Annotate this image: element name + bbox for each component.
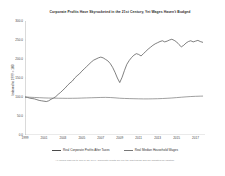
plot-area xyxy=(25,21,205,135)
x-tick-label: 2009 xyxy=(116,136,123,140)
x-tick-label: 1999 xyxy=(22,136,29,140)
y-tick-label: 200.0 xyxy=(15,57,23,61)
y-tick-label: 300.0 xyxy=(15,19,23,23)
legend: Real Corporate Profits After TaxesReal M… xyxy=(25,148,205,152)
y-tick-label: 150.0 xyxy=(15,76,23,80)
chart-note: All values indexed to 100 in Q1 1999. Co… xyxy=(25,159,205,162)
x-tick-label: 2011 xyxy=(135,136,142,140)
figure: Corporate Profits Have Skyrocketed in th… xyxy=(0,0,225,176)
axis-spine xyxy=(25,21,205,135)
x-tick-label: 2001 xyxy=(40,136,47,140)
legend-label: Real Corporate Profits After Taxes xyxy=(63,148,110,152)
x-tick-label: 2017 xyxy=(192,136,199,140)
x-tick-label: 2005 xyxy=(78,136,85,140)
legend-item-0[interactable]: Real Corporate Profits After Taxes xyxy=(52,148,110,152)
series-line-0 xyxy=(25,39,203,101)
legend-swatch-line-icon xyxy=(124,150,133,151)
chart-screenshot: Corporate Profits Have Skyrocketed in th… xyxy=(0,0,225,176)
x-tick-label: 2003 xyxy=(59,136,66,140)
legend-swatch-line-icon xyxy=(52,150,61,151)
legend-label: Real Median Household Wages xyxy=(135,148,178,152)
y-tick-label: 100.0 xyxy=(15,95,23,99)
x-axis-tick-labels: 1999200120032005200720092011201320152017 xyxy=(25,136,205,144)
x-tick-label: 2013 xyxy=(154,136,161,140)
plot-svg xyxy=(25,21,205,135)
legend-item-1[interactable]: Real Median Household Wages xyxy=(124,148,178,152)
series-line-1 xyxy=(25,96,203,99)
y-axis-tick-labels: 0.050.0100.0150.0200.0250.0300.0 xyxy=(0,21,23,135)
x-tick-label: 2007 xyxy=(97,136,104,140)
x-tick-label: 2015 xyxy=(173,136,180,140)
chart-title: Corporate Profits Have Skyrocketed in th… xyxy=(30,10,210,14)
y-tick-label: 50.0 xyxy=(17,114,23,118)
y-tick-label: 250.0 xyxy=(15,38,23,42)
